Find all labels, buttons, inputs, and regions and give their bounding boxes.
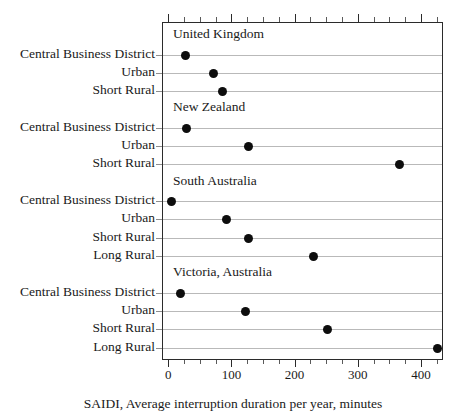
data-point [167,197,176,206]
row-rule [163,91,442,92]
plot-area: United KingdomNew ZealandSouth Australia… [162,22,443,360]
data-point [181,51,190,60]
category-label: Short Rural [6,321,162,335]
data-point [433,344,442,353]
category-label: Short Rural [6,83,162,97]
x-tick-major [358,360,359,367]
top-axis-ticks [162,12,443,22]
x-tick-major [295,360,296,367]
data-point [323,325,332,334]
x-tick-minor [263,360,264,364]
data-point [209,69,218,78]
category-label: Central Business District [6,120,162,134]
data-point [176,289,185,298]
top-tick-major [231,14,232,22]
row-rule [163,329,442,330]
x-tick-minor [216,360,217,364]
row-rule [163,201,442,202]
row-rule [163,55,442,56]
group-heading: South Australia [173,174,257,188]
category-label-axis: Central Business DistrictUrbanShort Rura… [0,22,162,360]
category-label: Short Rural [6,156,162,170]
row-rule [163,219,442,220]
x-tick-minor [326,360,327,364]
category-label: Short Rural [6,230,162,244]
category-label: Long Rural [6,248,162,262]
group-heading: Victoria, Australia [173,265,272,279]
x-tick-minor [405,360,406,364]
top-tick-major [295,14,296,22]
x-tick-label: 300 [348,368,368,382]
data-point [222,215,231,224]
row-rule [163,293,442,294]
group-heading: New Zealand [173,100,245,114]
row-rule [163,73,442,74]
group-heading: United Kingdom [173,27,264,41]
row-rule [163,238,442,239]
top-tick-major [421,14,422,22]
category-label: Urban [6,211,162,225]
x-tick-minor [342,360,343,364]
x-axis-title: SAIDI, Average interruption duration per… [0,396,466,412]
row-rule [163,128,442,129]
top-tick-major [168,14,169,22]
data-point [218,87,227,96]
data-point [244,234,253,243]
x-tick-minor [389,360,390,364]
category-label: Central Business District [6,47,162,61]
category-label: Central Business District [6,285,162,299]
top-tick-major [358,14,359,22]
x-axis: 0100200300400 [162,360,443,390]
x-tick-label: 100 [222,368,242,382]
data-point [244,142,253,151]
x-tick-major [231,360,232,367]
data-point [182,124,191,133]
category-label: Urban [6,65,162,79]
data-point [241,307,250,316]
x-tick-minor [247,360,248,364]
row-rule [163,256,442,257]
x-tick-minor [437,360,438,364]
data-point [395,160,404,169]
category-label: Urban [6,303,162,317]
row-rule [163,311,442,312]
category-label: Long Rural [6,340,162,354]
x-tick-major [168,360,169,367]
dot-plot-chart: Central Business DistrictUrbanShort Rura… [0,0,466,420]
x-tick-minor [184,360,185,364]
x-tick-minor [200,360,201,364]
x-tick-label: 200 [285,368,305,382]
category-label: Urban [6,138,162,152]
category-label: Central Business District [6,193,162,207]
x-tick-major [421,360,422,367]
row-rule [163,146,442,147]
x-tick-minor [279,360,280,364]
row-rule [163,348,442,349]
data-point [309,252,318,261]
x-tick-minor [374,360,375,364]
x-tick-label: 0 [165,368,172,382]
x-tick-label: 400 [411,368,431,382]
x-tick-minor [310,360,311,364]
